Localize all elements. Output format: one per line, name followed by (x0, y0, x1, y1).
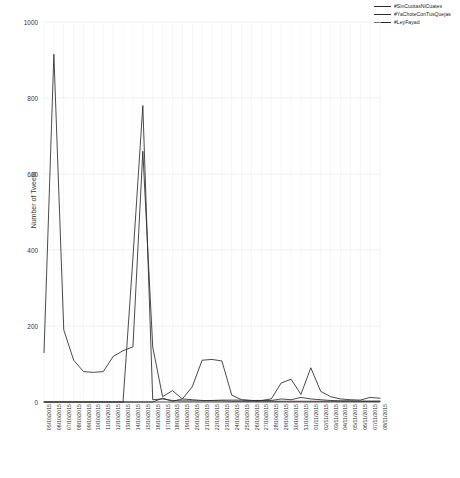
x-tick-label: 24/10/2015 (234, 404, 240, 430)
x-tick-label: 28/10/2015 (273, 404, 279, 430)
x-tick-label: 04/11/2015 (342, 404, 348, 430)
y-tick-label: 600 (10, 171, 38, 178)
y-tick-label: 800 (10, 95, 38, 102)
x-tick-label: 25/10/2015 (244, 404, 250, 430)
x-tick-label: 27/10/2015 (263, 404, 269, 430)
y-tick-label: 400 (10, 247, 38, 254)
x-tick-label: 03/11/2015 (333, 404, 339, 430)
x-tick-label: 17/10/2015 (165, 404, 171, 430)
legend-line-swatch-icon (374, 14, 391, 15)
x-tick-label: 18/10/2015 (174, 404, 180, 430)
y-tick-label: 1000 (10, 19, 38, 26)
x-tick-label: 26/10/2015 (254, 404, 260, 430)
x-tick-label: 01/11/2015 (313, 404, 319, 430)
x-tick-label: 29/10/2015 (283, 404, 289, 430)
x-tick-label: 13/10/2015 (125, 404, 131, 430)
y-axis-ticks: 02004006008001000 (8, 0, 38, 478)
legend-item-1[interactable]: #YaChoteConTusQuejas (374, 11, 451, 17)
x-tick-label: 31/10/2015 (303, 404, 309, 430)
chart-legend: #SinCuotasNiCuates #YaChoteConTusQuejas … (374, 3, 451, 25)
x-tick-label: 20/10/2015 (194, 404, 200, 430)
x-tick-label: 08/10/2015 (76, 404, 82, 430)
x-tick-label: 08/11/2015 (382, 404, 388, 430)
x-tick-label: 07/11/2015 (372, 404, 378, 430)
legend-label: #YaChoteConTusQuejas (394, 11, 451, 17)
x-tick-label: 21/10/2015 (204, 404, 210, 430)
x-tick-label: 12/10/2015 (115, 404, 121, 430)
legend-label: #SinCuotasNiCuates (394, 3, 442, 9)
x-tick-label: 07/10/2015 (66, 404, 72, 430)
x-tick-label: 30/10/2015 (293, 404, 299, 430)
y-tick-label: 0 (10, 399, 38, 406)
legend-item-2[interactable]: #LeyFayad (374, 19, 451, 25)
x-tick-label: 05/11/2015 (352, 404, 358, 430)
legend-line-swatch-icon (374, 6, 391, 7)
x-tick-label: 02/11/2015 (323, 404, 329, 430)
x-tick-label: 22/10/2015 (214, 404, 220, 430)
x-tick-label: 16/10/2015 (155, 404, 161, 430)
x-tick-label: 06/11/2015 (362, 404, 368, 430)
gridlines (44, 22, 380, 402)
legend-label: #LeyFayad (394, 19, 420, 25)
x-tick-label: 06/10/2015 (56, 404, 62, 430)
x-axis-ticks: 05/10/201506/10/201507/10/201508/10/2015… (44, 404, 380, 478)
plot-area (44, 22, 380, 402)
x-tick-label: 19/10/2015 (184, 404, 190, 430)
x-tick-label: 10/10/2015 (95, 404, 101, 430)
x-tick-label: 05/10/2015 (46, 404, 52, 430)
x-tick-label: 11/10/2015 (105, 404, 111, 430)
y-tick-label: 200 (10, 323, 38, 330)
x-tick-label: 23/10/2015 (224, 404, 230, 430)
x-tick-label: 09/10/2015 (86, 404, 92, 430)
legend-item-0[interactable]: #SinCuotasNiCuates (374, 3, 451, 9)
x-tick-label: 15/10/2015 (145, 404, 151, 430)
x-tick-label: 14/10/2015 (135, 404, 141, 430)
tweet-volume-line-chart: #SinCuotasNiCuates #YaChoteConTusQuejas … (0, 0, 460, 478)
